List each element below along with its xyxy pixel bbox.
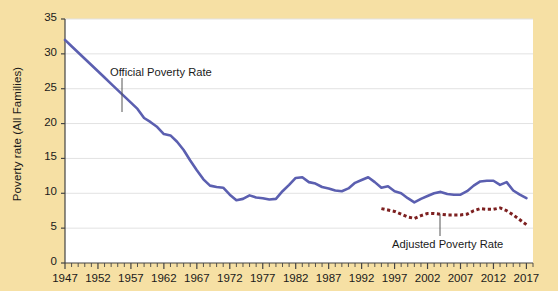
y-axis-title: Poverty rate (All Families) bbox=[11, 29, 23, 239]
annotation-label-official: Official Poverty Rate bbox=[110, 66, 212, 78]
x-tick-label: 2017 bbox=[503, 272, 549, 284]
y-tick-label: 10 bbox=[27, 185, 57, 197]
y-tick-label: 35 bbox=[27, 11, 57, 23]
y-tick-label: 20 bbox=[27, 116, 57, 128]
annotation-label-adjusted: Adjusted Poverty Rate bbox=[392, 238, 503, 250]
y-tick-label: 5 bbox=[27, 220, 57, 232]
y-tick-label: 0 bbox=[27, 255, 57, 267]
y-tick-label: 25 bbox=[27, 81, 57, 93]
poverty-rate-chart: Poverty rate (All Families)0510152025303… bbox=[0, 0, 558, 291]
y-tick-label: 15 bbox=[27, 150, 57, 162]
plot-background bbox=[65, 19, 533, 263]
y-tick-label: 30 bbox=[27, 46, 57, 58]
